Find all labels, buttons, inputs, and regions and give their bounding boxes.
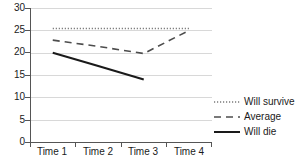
x-axis-category-label: Time 4: [166, 146, 212, 158]
line-chart: 30 25 20 15 10 5 0 Time 1 Time 2 Time 3 …: [0, 0, 300, 163]
y-axis-labels: 30 25 20 15 10 5 0: [0, 0, 25, 163]
y-axis-tick-label: 30: [3, 3, 25, 13]
legend-label: Average: [244, 111, 281, 122]
y-axis-tick-label: 5: [3, 115, 25, 125]
y-axis-tick-label: 25: [3, 25, 25, 35]
legend-label: Will survive: [244, 96, 295, 107]
chart-legend: Will survive Average Will die: [214, 94, 300, 139]
legend-item-average[interactable]: Average: [214, 109, 300, 124]
series-line: [53, 53, 144, 80]
y-axis-tick-label: 15: [3, 70, 25, 80]
y-axis-tick-label: 10: [3, 92, 25, 102]
x-axis-category-label: Time 3: [120, 146, 166, 158]
legend-item-will-die[interactable]: Will die: [214, 124, 300, 139]
dotted-line-icon: [214, 97, 240, 107]
solid-line-icon: [214, 127, 240, 137]
y-axis-tick-label: 0: [3, 137, 25, 147]
series-line: [53, 30, 190, 53]
dashed-line-icon: [214, 112, 240, 122]
series-lines: [30, 8, 212, 142]
legend-item-will-survive[interactable]: Will survive: [214, 94, 300, 109]
y-axis-tick-label: 20: [3, 47, 25, 57]
x-axis-category-label: Time 1: [29, 146, 75, 158]
x-axis-category-label: Time 2: [75, 146, 121, 158]
legend-label: Will die: [244, 126, 276, 137]
